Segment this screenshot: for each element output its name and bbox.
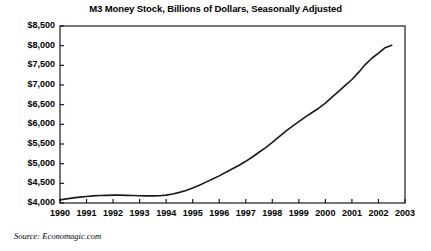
y-axis-tick-label: $4,500 <box>2 177 55 187</box>
y-axis-tick-label: $5,500 <box>2 138 55 148</box>
y-axis-tick-label: $4,000 <box>2 197 55 207</box>
axis-frame <box>60 26 405 203</box>
y-axis-tick-label: $6,000 <box>2 118 55 128</box>
y-axis-tick-label: $8,000 <box>2 40 55 50</box>
tick-marks <box>60 26 405 203</box>
x-axis-tick-label: 2003 <box>385 208 425 218</box>
chart-container: M3 Money Stock, Billions of Dollars, Sea… <box>0 0 431 251</box>
y-axis-tick-label: $5,000 <box>2 158 55 168</box>
y-axis-tick-label: $7,500 <box>2 59 55 69</box>
y-axis-tick-label: $7,000 <box>2 79 55 89</box>
data-series <box>60 45 392 200</box>
y-axis-tick-label: $6,500 <box>2 99 55 109</box>
source-note: Source: Economagic.com <box>14 231 101 241</box>
y-axis-tick-label: $8,500 <box>2 20 55 30</box>
